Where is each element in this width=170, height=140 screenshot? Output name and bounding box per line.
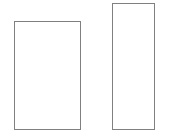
right-bar-rectangle (112, 3, 155, 130)
figure-canvas (0, 0, 170, 140)
left-bar-rectangle (14, 21, 81, 130)
